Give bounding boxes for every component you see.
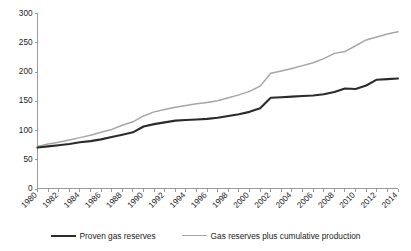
y-tick-label: 100 (19, 126, 33, 135)
x-tick-label: 2000 (232, 190, 252, 210)
x-tick-label: 2006 (295, 190, 315, 210)
x-tick-label: 1982 (41, 190, 61, 210)
legend-item-proven-gas-reserves: Proven gas reserves (51, 232, 156, 240)
x-tick-label: 1998 (211, 190, 231, 210)
y-tick-label: 250 (19, 38, 33, 47)
y-tick-label: 200 (19, 67, 33, 76)
x-tick-label: 1988 (104, 190, 124, 210)
x-tick-label: 2008 (317, 190, 337, 210)
x-tick-label: 1986 (83, 190, 103, 210)
plot-area: 050100150200250300 198019821984198619881… (0, 0, 411, 251)
x-tick-label: 1990 (126, 190, 146, 210)
y-axis-tick-labels: 050100150200250300 (19, 9, 33, 194)
x-tick-label: 1992 (147, 190, 167, 210)
x-tick-label: 2012 (359, 190, 379, 210)
x-tick-label: 1994 (168, 190, 188, 210)
y-tick-label: 150 (19, 96, 33, 105)
series-line-proven-gas-reserves (38, 79, 399, 148)
legend-item-gas-reserves-plus-cumulative-production: Gas reserves plus cumulative production (182, 232, 361, 240)
x-tick-label: 2002 (253, 190, 273, 210)
x-tick-label: 1996 (189, 190, 209, 210)
x-axis-tick-labels: 1980198219841986198819901992199419961998… (20, 190, 400, 210)
x-tick-label: 1980 (20, 190, 40, 210)
legend-label-primary: Proven gas reserves (80, 232, 156, 240)
x-tick-label: 1984 (62, 190, 82, 210)
y-tick-label: 300 (19, 9, 33, 18)
x-tick-label: 2014 (380, 190, 400, 210)
legend-label-secondary: Gas reserves plus cumulative production (211, 232, 361, 240)
legend-swatch-icon-secondary (182, 235, 207, 236)
gas-reserves-line-chart: 050100150200250300 198019821984198619881… (0, 0, 411, 251)
x-tick-label: 2004 (274, 190, 294, 210)
x-tick-label: 2010 (338, 190, 358, 210)
chart-legend: Proven gas reserves Gas reserves plus cu… (0, 228, 411, 244)
legend-swatch-icon-primary (51, 235, 76, 237)
y-tick-label: 50 (23, 155, 33, 164)
